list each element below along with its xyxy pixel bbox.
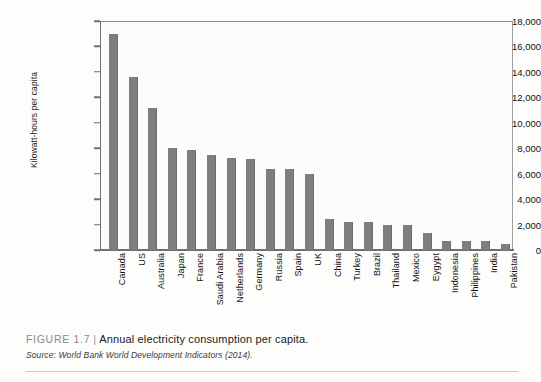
figure-caption: FIGURE 1.7|Annual electricity consumptio…: [26, 333, 518, 360]
x-tick-label: Mexico: [411, 253, 421, 282]
caption-source: Source: World Bank World Development Ind…: [26, 350, 518, 360]
bar: [227, 158, 236, 250]
bar: [383, 225, 392, 250]
bar: [129, 77, 138, 250]
x-tick-label: Spain: [293, 253, 303, 277]
x-tick-label: Pakistan: [509, 253, 519, 288]
bar: [423, 233, 432, 250]
bar: [442, 241, 451, 250]
caption-separator: |: [90, 333, 99, 345]
chart-figure: Kilowatt-hours per capita 18,00016,00014…: [0, 0, 541, 330]
x-tick-label: Canada: [117, 253, 127, 285]
bar: [501, 244, 510, 250]
x-tick-label: Eygypt: [431, 253, 441, 281]
caption-divider: [26, 371, 518, 372]
x-tick-label: Philippines: [470, 253, 480, 298]
bar: [364, 222, 373, 250]
x-tick-label: Australia: [156, 253, 166, 289]
bar: [187, 150, 196, 250]
x-tick-label: China: [333, 253, 343, 277]
caption-title-text: Annual electricity consumption per capit…: [99, 333, 308, 345]
x-tick-label: Germany: [254, 253, 264, 291]
x-tick-label: Japan: [176, 253, 186, 278]
bar: [148, 108, 157, 250]
x-tick-label: US: [137, 253, 147, 266]
x-tick-label: Indonesia: [450, 253, 460, 293]
bar: [403, 225, 412, 250]
bar: [168, 148, 177, 250]
x-tick-label: France: [195, 253, 205, 282]
bar: [344, 222, 353, 250]
x-tick-label: Turkey: [352, 253, 362, 281]
bar: [481, 241, 490, 250]
x-tick-label: Brazil: [372, 253, 382, 276]
bar: [325, 219, 334, 250]
x-tick-label: UK: [313, 253, 323, 266]
caption-title-line: FIGURE 1.7|Annual electricity consumptio…: [26, 333, 518, 345]
x-tick-label: Russia: [274, 253, 284, 281]
bar: [109, 34, 118, 250]
x-tick-label: Netherlands: [235, 253, 245, 303]
bar: [462, 241, 471, 250]
bar: [207, 155, 216, 250]
bar: [305, 174, 314, 250]
x-tick-label: Saudi Arabia: [215, 253, 225, 305]
bar: [246, 159, 255, 250]
caption-figure-number: FIGURE 1.7: [26, 333, 90, 345]
x-tick-label: India: [489, 253, 499, 273]
x-tick-label: Thailand: [391, 253, 401, 288]
bar: [285, 169, 294, 250]
figure-page: Kilowatt-hours per capita 18,00016,00014…: [0, 0, 541, 382]
bar: [266, 169, 275, 250]
